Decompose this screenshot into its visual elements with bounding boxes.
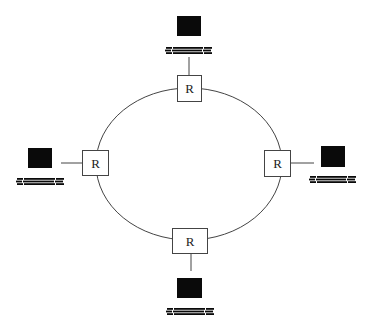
router-label: R (91, 156, 100, 171)
router-label: R (273, 156, 282, 171)
keyboard-icon (166, 308, 214, 315)
router-left: R (83, 151, 109, 176)
router-top: R (178, 76, 202, 102)
keyboard-icon (165, 47, 212, 54)
computer-icon (166, 278, 214, 315)
computer-icon (16, 148, 64, 185)
router-right: R (265, 151, 291, 177)
router-label: R (185, 81, 194, 96)
ring-link (96, 88, 282, 240)
router-bottom: R (173, 229, 208, 254)
monitor-icon (321, 146, 345, 167)
router-label: R (186, 234, 195, 249)
keyboard-icon (309, 176, 356, 183)
monitor-icon (177, 16, 201, 36)
ring-network-diagram: RRRR (0, 0, 372, 329)
keyboard-icon (16, 178, 64, 185)
computer-icon (309, 146, 356, 183)
routers: RRRR (83, 76, 291, 254)
computer-icon (165, 16, 212, 54)
monitor-icon (28, 148, 52, 168)
monitor-icon (177, 278, 202, 298)
hosts (16, 16, 356, 315)
